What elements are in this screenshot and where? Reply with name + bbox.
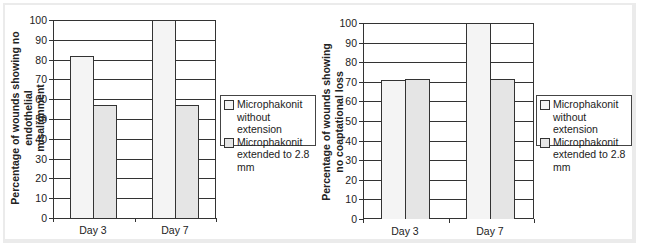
y-tick-mark [359,101,363,102]
legend-label: Microphakonit [553,98,628,111]
y-tick-mark [359,160,363,161]
gridline [363,43,534,44]
gridline [363,23,534,24]
y-tick-label: 60 [335,95,357,107]
legend-swatch-icon [540,100,550,110]
bar [381,80,406,219]
legend-label: extended to 2.8 mm [553,148,628,173]
x-tick-mark [363,219,364,223]
x-tick-label: Day 7 [460,225,520,237]
y-tick-label: 100 [335,17,357,29]
y-tick-label: 10 [335,193,357,205]
legend-label: without extension [553,111,628,136]
y-tick-mark [359,23,363,24]
gridline [363,62,534,63]
legend-swatch-icon [540,138,550,148]
x-tick-mark [534,219,535,223]
x-tick-mark [449,219,450,223]
y-axis-title-line-1: Percentage of wounds showing [320,22,333,222]
y-tick-label: 30 [335,154,357,166]
legend: Microphakonit without extension Micropha… [536,95,632,146]
legend-item-without-extension: Microphakonit without extension [540,98,628,136]
y-tick-mark [359,43,363,44]
y-tick-mark [359,62,363,63]
y-tick-mark [359,121,363,122]
y-tick-label: 40 [335,135,357,147]
y-tick-label: 0 [335,213,357,225]
x-tick-label: Day 3 [375,225,435,237]
y-tick-label: 70 [335,76,357,88]
legend-label: Microphakonit [553,136,628,149]
y-tick-label: 90 [335,37,357,49]
y-tick-label: 80 [335,56,357,68]
bar [405,79,430,219]
y-tick-mark [359,82,363,83]
y-tick-mark [359,199,363,200]
chart-coaptational-loss: Percentage of wounds showing no coaptati… [0,0,645,251]
y-tick-label: 20 [335,174,357,186]
figure-frame: Percentage of wounds showing no endothel… [0,0,645,251]
legend-item-extended: Microphakonit extended to 2.8 mm [540,136,628,174]
y-tick-mark [359,141,363,142]
y-tick-mark [359,180,363,181]
bar [466,23,491,219]
bar [490,79,515,219]
y-tick-label: 50 [335,115,357,127]
